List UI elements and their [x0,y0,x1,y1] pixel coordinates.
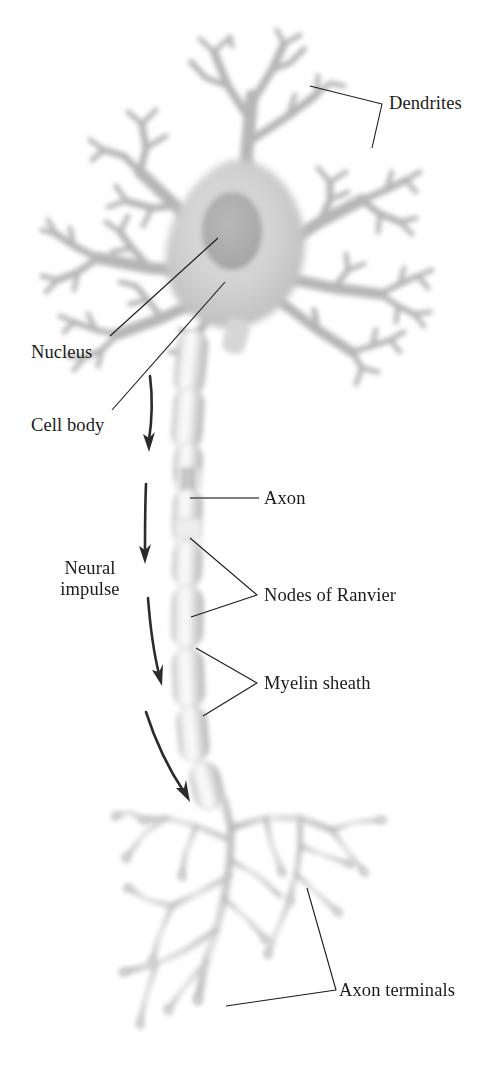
myelin-segment [173,329,210,398]
neuron-diagram: Dendrites Nucleus Cell body Axon Nodes o… [0,0,493,1065]
leader-terminals [226,888,336,1006]
impulse-arrow [145,484,146,552]
nucleus-shape [202,192,262,270]
impulse-arrow [149,376,152,440]
myelin-segment [172,541,203,588]
label-axon: Axon [264,488,306,509]
label-myelin-sheath: Myelin sheath [264,673,371,694]
myelin-segment [171,586,203,649]
label-nodes-of-ranvier: Nodes of Ranvier [264,585,396,606]
myelin-segment [176,705,211,763]
label-nucleus: Nucleus [31,342,92,363]
label-axon-terminals: Axon terminals [339,980,455,1001]
neuron-illustration [0,0,493,1065]
leader-myelin [196,648,257,716]
myelin-segment [171,387,205,451]
impulse-arrow [148,598,159,674]
leader-dendrites [310,86,382,148]
myelin-sheath-group [171,318,250,813]
myelin-segment-cutaway-bottom [172,489,203,544]
myelin-segment [172,647,205,708]
label-cell-body: Cell body [31,415,104,436]
label-dendrites: Dendrites [389,93,462,114]
label-neural-impulse: Neural impulse [38,558,142,601]
